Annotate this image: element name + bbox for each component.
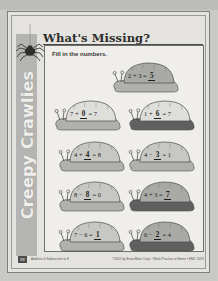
equation: 1 + 6 = 7 [144,110,171,119]
snail-problem: 7 − 6 = 1 [53,218,131,256]
equation: 2 + 3 = 5 [128,72,155,81]
right-operand[interactable]: 3 [154,152,161,160]
equation: 4 + 4 = 8 [74,151,101,160]
page-title: What's Missing? [43,31,150,45]
answer-value: 4 [168,231,171,238]
worksheet-content-box: Fill in the numbers. 2 + 3 = 57 + 0 = 71… [44,45,204,252]
scanned-page: Creepy Crawlies What's [0,0,218,281]
page-number: 88 [18,256,27,263]
left-operand: 4 [144,191,147,198]
equals-symbol: = [143,72,147,79]
answer-value: 7 [168,110,171,117]
equals-symbol: = [162,151,166,158]
answer-value: 8 [98,151,101,158]
operator-symbol: − [79,191,83,198]
snail-problem: 2 + 3 = 5 [107,59,185,97]
answer-value: 7 [94,110,97,117]
snail-problem: 1 + 6 = 7 [123,97,201,135]
operator-symbol: + [149,110,153,117]
operator-symbol: − [149,231,153,238]
left-operand: 8 [74,191,77,198]
left-operand: 7 [74,231,77,238]
equals-symbol: = [159,191,163,198]
instruction-text: Fill in the numbers. [52,51,107,57]
right-operand[interactable]: 4 [84,152,91,160]
equation: 4 + 3 = 7 [144,191,171,200]
operator-symbol: + [133,72,137,79]
left-operand: 4 [144,151,147,158]
side-banner: Creepy Crawlies [16,34,37,256]
footer-left-text: Addition & Subtraction to 8 [31,257,69,261]
equation: 8 − 8 = 0 [74,191,101,200]
operator-symbol: + [75,110,79,117]
answer-value[interactable]: 5 [148,73,155,81]
left-operand: 1 [144,110,147,117]
right-operand[interactable]: 2 [154,232,161,240]
equals-symbol: = [162,110,166,117]
right-operand[interactable]: 0 [80,111,87,119]
answer-value: 1 [168,151,171,158]
left-operand: 7 [70,110,73,117]
equation: 7 + 0 = 7 [70,110,97,119]
equals-symbol: = [88,110,92,117]
snail-problem: 4 + 4 = 8 [53,138,131,176]
right-operand[interactable]: 6 [154,111,161,119]
equals-symbol: = [92,151,96,158]
equation: 7 − 6 = 1 [74,231,101,240]
left-operand: 4 [74,151,77,158]
equals-symbol: = [92,191,96,198]
side-banner-label: Creepy Crawlies [17,71,36,219]
snail-problem: 7 + 0 = 7 [49,97,127,135]
equation: 4 − 3 = 1 [144,151,171,160]
right-operand: 6 [84,231,87,238]
left-operand: 6 [144,231,147,238]
right-operand: 3 [138,72,141,79]
scan-top-strip [0,0,218,10]
left-operand: 2 [128,72,131,79]
right-operand: 3 [154,191,157,198]
answer-value[interactable]: 7 [164,192,171,200]
snail-problem: 6 − 2 = 4 [123,218,201,256]
equals-symbol: = [162,231,166,238]
snail-problem: 4 − 3 = 1 [123,138,201,176]
operator-symbol: − [149,151,153,158]
equals-symbol: = [89,231,93,238]
operator-symbol: + [79,151,83,158]
page-footer: 88 Addition & Subtraction to 8 ©2001 by … [18,256,204,265]
answer-value: 0 [98,191,101,198]
footer-right-text: ©2001 by Evan-Moor Corp. • Math Practice… [112,257,204,261]
equation: 6 − 2 = 4 [144,231,171,240]
snail-problem: 4 + 3 = 7 [123,178,201,216]
operator-symbol: − [79,231,83,238]
operator-symbol: + [149,191,153,198]
worksheet-sheet: Creepy Crawlies What's [7,11,210,273]
snail-problem: 8 − 8 = 0 [53,178,131,216]
right-operand[interactable]: 8 [84,192,91,200]
answer-value[interactable]: 1 [94,232,101,240]
